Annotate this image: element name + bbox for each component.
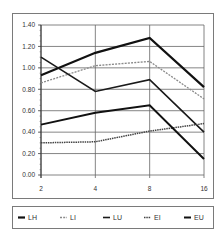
- legend-label: LH: [28, 214, 37, 221]
- legend-item-eu: EU: [184, 214, 204, 221]
- legend: LHLILUEIEU: [18, 214, 204, 221]
- legend-label: LI: [70, 214, 76, 221]
- x-tick-label: 2: [39, 185, 43, 192]
- x-tick-label: 16: [200, 185, 208, 192]
- x-tick-label: 8: [148, 185, 152, 192]
- y-tick-label: 1.20: [22, 43, 35, 50]
- grid-lines: [41, 25, 204, 178]
- series-lines: [41, 38, 204, 159]
- legend-label: LU: [113, 214, 122, 221]
- series-line-lh: [41, 38, 204, 87]
- y-tick-label: 0.80: [22, 86, 35, 93]
- y-tick-label: 0.00: [22, 171, 35, 178]
- legend-item-lu: LU: [103, 214, 122, 221]
- legend-item-ei: EI: [144, 214, 161, 221]
- legend-label: EI: [154, 214, 161, 221]
- legend-item-lh: LH: [18, 214, 37, 221]
- y-tick-label: 0.40: [22, 128, 35, 135]
- series-line-li: [41, 61, 204, 99]
- y-tick-label: 1.00: [22, 64, 35, 71]
- series-line-lu: [41, 57, 204, 132]
- legend-label: EU: [194, 214, 204, 221]
- line-chart: 0.000.200.400.600.801.001.201.4024816 LH…: [0, 0, 224, 243]
- series-line-ei: [41, 124, 204, 143]
- x-tick-label: 4: [94, 185, 98, 192]
- legend-item-li: LI: [60, 214, 76, 221]
- y-tick-label: 1.40: [22, 21, 35, 28]
- y-tick-label: 0.60: [22, 107, 35, 114]
- y-tick-label: 0.20: [22, 150, 35, 157]
